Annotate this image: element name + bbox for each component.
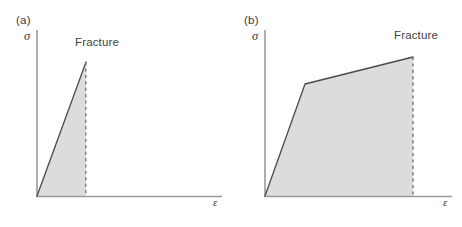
panel-brittle: (a) σ ε Fracture (0, 0, 231, 227)
panel-tag-a: (a) (16, 14, 31, 26)
x-axis-label-strain: ε (213, 196, 217, 208)
x-axis-label-strain: ε (443, 196, 447, 208)
y-axis-label-stress: σ (24, 29, 30, 44)
panel-ductile: (b) σ ε Fracture (231, 0, 462, 227)
fracture-annotation: Fracture (394, 29, 438, 41)
fracture-annotation: Fracture (75, 36, 119, 48)
brittle-plot-graphic (0, 0, 231, 227)
toughness-area-fill (265, 57, 413, 196)
y-axis-label-stress: σ (252, 29, 258, 44)
panel-tag-b: (b) (244, 14, 259, 26)
stress-strain-figure: (a) σ ε Fracture (b) σ ε Fracture (0, 0, 462, 227)
